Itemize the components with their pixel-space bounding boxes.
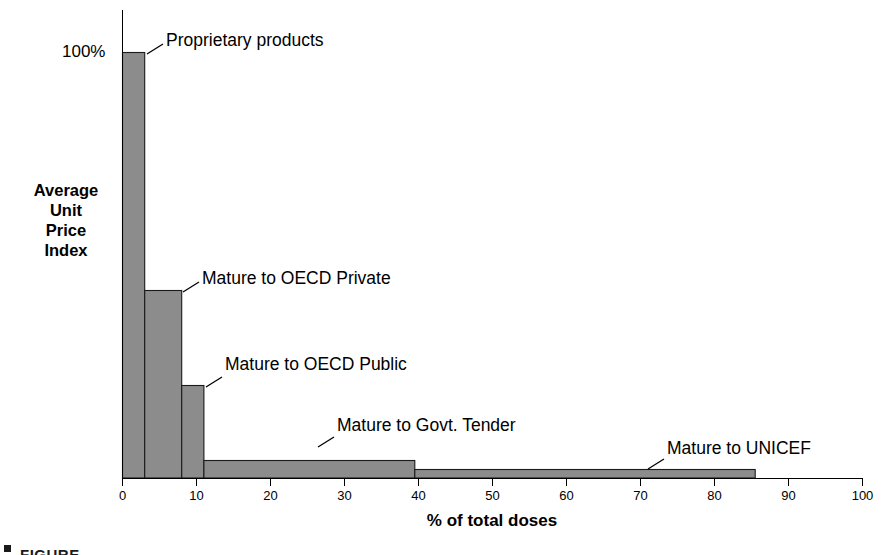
chart-figure: 100% Average Unit Price Index Proprietar… — [0, 0, 885, 555]
caption-fragment-text: FIGURE — [20, 546, 80, 555]
leader-line-mature-to-unicef — [648, 459, 664, 469]
callout-label-proprietary-products: Proprietary products — [166, 32, 324, 50]
y-axis-title-line-3: Price — [18, 220, 114, 240]
x-axis-ticks — [123, 479, 863, 487]
y-axis-title: Average Unit Price Index — [18, 180, 114, 261]
callout-label-mature-to-unicef: Mature to UNICEF — [667, 440, 811, 458]
x-axis-tick-label-90: 90 — [781, 489, 795, 502]
y-axis-title-line-2: Unit — [18, 200, 114, 220]
x-axis-tick-label-80: 80 — [707, 489, 721, 502]
x-axis-tick-label-20: 20 — [263, 489, 277, 502]
x-axis-tick-label-40: 40 — [411, 489, 425, 502]
x-axis-tick-label-100: 100 — [852, 489, 874, 502]
y-axis-title-line-1: Average — [18, 180, 114, 200]
caption-bullet-marker — [4, 545, 11, 552]
callout-label-mature-to-oecd-private: Mature to OECD Private — [202, 270, 391, 288]
callout-label-mature-to-oecd-public: Mature to OECD Public — [225, 356, 407, 374]
bar-proprietary-products — [123, 53, 145, 479]
leader-line-mature-to-govt-tender — [318, 437, 334, 447]
x-axis-tick-label-30: 30 — [337, 489, 351, 502]
x-axis-title: % of total doses — [427, 512, 557, 529]
x-axis-tick-label-10: 10 — [189, 489, 203, 502]
bar-mature-to-unicef — [415, 470, 755, 479]
x-axis-tick-label-60: 60 — [559, 489, 573, 502]
callout-label-mature-to-govt-tender: Mature to Govt. Tender — [337, 417, 516, 435]
y-axis-tick-label-100: 100% — [62, 43, 105, 60]
x-axis-tick-label-50: 50 — [485, 489, 499, 502]
x-axis-tick-label-0: 0 — [119, 489, 126, 502]
bar-mature-to-govt-tender — [204, 461, 415, 479]
chart-canvas — [0, 0, 885, 555]
y-axis-title-line-4: Index — [18, 240, 114, 260]
bar-mature-to-oecd-public — [182, 386, 204, 479]
x-axis-tick-label-70: 70 — [633, 489, 647, 502]
leader-line-mature-to-oecd-public — [206, 377, 222, 387]
leader-line-proprietary-products — [147, 44, 163, 54]
bar-mature-to-oecd-private — [145, 291, 182, 479]
leader-line-mature-to-oecd-private — [183, 282, 199, 292]
